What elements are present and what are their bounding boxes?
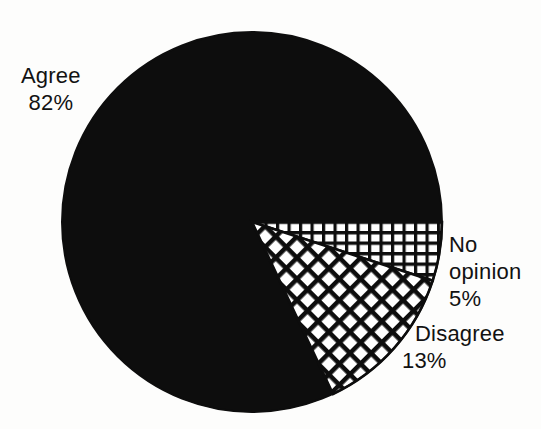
- pie-label-disagree-percent: 13%: [402, 347, 505, 374]
- pie-label-agree-percent: 82%: [21, 89, 81, 116]
- pie-label-agree-name: Agree: [21, 62, 81, 89]
- pie-label-no-opinion: No opinion 5%: [449, 231, 521, 312]
- pie-label-disagree: Disagree 13%: [402, 320, 505, 374]
- pie-label-disagree-name: Disagree: [415, 320, 505, 347]
- pie-chart: Agree 82% No opinion 5% Disagree 13%: [0, 0, 541, 429]
- pie-label-no-opinion-name-line1: No: [449, 231, 521, 258]
- pie-label-no-opinion-name-line2: opinion: [449, 258, 521, 285]
- pie-label-no-opinion-percent: 5%: [449, 285, 521, 312]
- pie-label-agree: Agree 82%: [21, 62, 81, 116]
